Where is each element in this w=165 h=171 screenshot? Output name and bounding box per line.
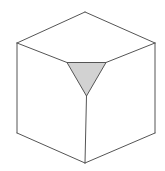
cube-diagram xyxy=(0,0,165,171)
figure-canvas xyxy=(0,0,165,171)
